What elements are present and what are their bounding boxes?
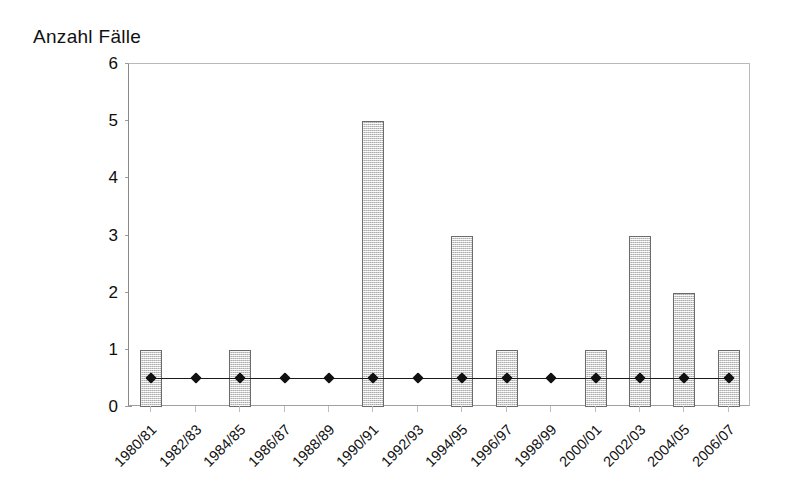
x-tick-mark — [550, 406, 551, 412]
x-tick-label: 2002/03 — [553, 422, 648, 497]
x-tick-label: 1988/89 — [242, 422, 337, 497]
y-axis: 0123456 — [0, 0, 128, 497]
x-tick-label: 1990/91 — [286, 422, 381, 497]
bar — [362, 121, 384, 407]
y-tick-label: 4 — [96, 169, 118, 186]
y-tick-label: 0 — [96, 398, 118, 415]
x-tick-label: 1984/85 — [153, 422, 248, 497]
data-point-marker — [279, 373, 290, 384]
x-tick-label: 1980/81 — [64, 422, 159, 497]
x-tick-label: 1996/97 — [420, 422, 515, 497]
x-tick-mark — [284, 406, 285, 412]
data-point-marker — [412, 373, 423, 384]
x-tick-label: 2000/01 — [509, 422, 604, 497]
y-tick-label: 5 — [96, 112, 118, 129]
data-point-marker — [190, 373, 201, 384]
x-tick-label: 1998/99 — [464, 422, 559, 497]
chart-title: Anzahl Fälle — [33, 26, 141, 48]
bar — [673, 293, 695, 407]
x-tick-label: 2004/05 — [597, 422, 692, 497]
chart-container: Anzahl Fälle 0123456 1980/811982/831984/… — [0, 0, 789, 497]
x-tick-mark — [417, 406, 418, 412]
x-tick-mark — [328, 406, 329, 412]
x-tick-label: 2006/07 — [642, 422, 737, 497]
data-point-marker — [545, 373, 556, 384]
y-tick-label: 2 — [96, 284, 118, 301]
x-tick-label: 1986/87 — [198, 422, 293, 497]
data-point-marker — [323, 373, 334, 384]
x-tick-label: 1982/83 — [109, 422, 204, 497]
x-tick-label: 1992/93 — [331, 422, 426, 497]
x-tick-label: 1994/95 — [375, 422, 470, 497]
y-tick-label: 1 — [96, 341, 118, 358]
x-tick-mark — [195, 406, 196, 412]
plot-area — [128, 63, 750, 406]
plot-inner — [129, 64, 749, 405]
y-tick-label: 6 — [96, 55, 118, 72]
y-tick-mark — [125, 406, 132, 407]
y-tick-label: 3 — [96, 227, 118, 244]
